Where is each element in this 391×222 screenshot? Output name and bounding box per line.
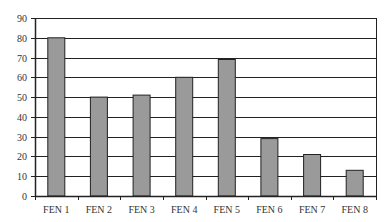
- gridlines: [35, 19, 376, 177]
- y-tick-label: 60: [17, 72, 27, 83]
- y-tick-label: 30: [17, 132, 27, 143]
- y-tick-label: 40: [17, 112, 27, 123]
- bar: [90, 97, 107, 196]
- bar: [346, 170, 363, 196]
- y-tick-label: 80: [17, 33, 27, 44]
- bar: [261, 139, 278, 196]
- x-tick-label: FEN 7: [299, 204, 325, 215]
- y-tick-label: 90: [17, 13, 27, 24]
- x-tick-label: FEN 6: [256, 204, 282, 215]
- bar-chart: 0102030405060708090 FEN 1FEN 2FEN 3FEN 4…: [0, 0, 391, 222]
- bar: [304, 155, 321, 197]
- x-tick-label: FEN 3: [128, 204, 154, 215]
- y-tick-label: 20: [17, 151, 27, 162]
- bar: [133, 95, 150, 196]
- x-tick-label: FEN 1: [43, 204, 69, 215]
- y-tick-label: 50: [17, 92, 27, 103]
- bar: [48, 38, 65, 196]
- bar: [176, 77, 193, 196]
- x-tick-label: FEN 2: [86, 204, 112, 215]
- axes: [31, 18, 377, 200]
- x-tick-label: FEN 5: [214, 204, 240, 215]
- x-tick-label: FEN 4: [171, 204, 197, 215]
- x-tick-label: FEN 8: [341, 204, 367, 215]
- x-axis-tick-labels: FEN 1FEN 2FEN 3FEN 4FEN 5FEN 6FEN 7FEN 8: [43, 204, 368, 215]
- y-tick-label: 70: [17, 53, 27, 64]
- y-tick-label: 10: [17, 171, 27, 182]
- bars: [48, 38, 363, 196]
- bar: [218, 60, 235, 197]
- y-axis-tick-labels: 0102030405060708090: [17, 13, 27, 202]
- y-tick-label: 0: [22, 191, 27, 202]
